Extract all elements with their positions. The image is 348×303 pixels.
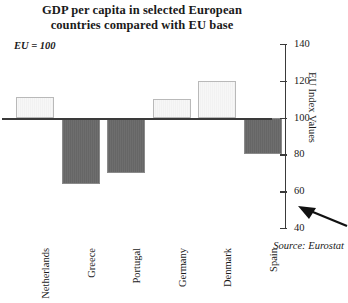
bar-germany [153, 99, 191, 117]
y-axis-title: EU Index Values [307, 72, 318, 182]
y-tick-label-140: 140 [294, 39, 310, 49]
chart-title-line-2: countries compared with EU base [14, 18, 270, 33]
y-tick-label-80: 80 [294, 149, 305, 159]
y-axis-spine [285, 44, 286, 228]
y-tick-140 [280, 44, 287, 45]
y-tick-100 [280, 118, 287, 119]
bar-spain [244, 118, 282, 155]
bars-layer [0, 44, 272, 184]
y-tick-120 [280, 81, 287, 82]
chart-title-line-1: GDP per capita in selected European [42, 3, 242, 17]
bar-netherlands [16, 97, 54, 117]
plot-area [0, 44, 272, 184]
source-note: Source: Eurostat [273, 240, 344, 251]
y-tick-60 [280, 191, 287, 192]
y-tick-80 [280, 154, 287, 155]
category-label-netherlands: Netherlands [40, 248, 51, 303]
y-axis: 406080100120140 [280, 44, 292, 228]
category-label-spain: Spain [268, 248, 279, 303]
category-axis-labels: NetherlandsGreecePortugalGermanyDenmarkS… [0, 184, 272, 252]
y-tick-label-60: 60 [294, 186, 305, 196]
category-label-portugal: Portugal [131, 248, 142, 303]
bar-portugal [107, 118, 145, 173]
bar-greece [62, 118, 100, 184]
bar-denmark [198, 81, 236, 118]
pointer-arrow-icon [294, 203, 348, 229]
category-label-germany: Germany [177, 248, 188, 303]
baseline-100 [2, 118, 272, 120]
chart-title: GDP per capita in selected European coun… [14, 3, 270, 33]
category-label-denmark: Denmark [222, 248, 233, 303]
y-tick-40 [280, 228, 287, 229]
category-label-greece: Greece [86, 248, 97, 303]
